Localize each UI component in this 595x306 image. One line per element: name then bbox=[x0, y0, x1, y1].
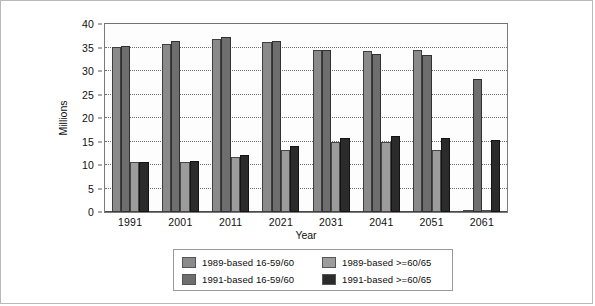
bar bbox=[221, 37, 230, 212]
bar bbox=[413, 50, 422, 212]
x-tick-label: 2031 bbox=[319, 216, 343, 228]
chart-figure: Millions 0510152025303540 19912001201120… bbox=[0, 0, 593, 304]
bar bbox=[322, 50, 331, 212]
y-tick-mark bbox=[98, 94, 102, 95]
bar bbox=[171, 41, 180, 212]
bar bbox=[262, 42, 271, 212]
bar bbox=[372, 54, 381, 212]
x-tick-label: 2011 bbox=[219, 216, 242, 228]
bar bbox=[381, 142, 390, 212]
legend-swatch-icon bbox=[322, 274, 336, 285]
bar bbox=[190, 161, 199, 212]
x-tick-label: 2041 bbox=[369, 216, 393, 228]
y-tick-label: 10 bbox=[82, 159, 94, 171]
legend-label: 1989-based >=60/65 bbox=[342, 257, 432, 268]
legend-label: 1991-based >=60/65 bbox=[342, 274, 432, 285]
bar bbox=[212, 39, 221, 212]
x-tick-label: 1991 bbox=[118, 216, 142, 228]
y-tick-mark bbox=[98, 188, 102, 189]
y-tick-mark bbox=[98, 141, 102, 142]
x-tick-label: 2001 bbox=[168, 216, 192, 228]
y-tick-mark bbox=[98, 212, 102, 213]
y-tick-mark bbox=[98, 24, 102, 25]
legend-entry[interactable]: 1989-based 16-59/60 bbox=[182, 255, 294, 269]
bar bbox=[391, 136, 400, 212]
x-axis-title: Year bbox=[295, 229, 316, 241]
y-tick-label: 0 bbox=[88, 206, 94, 218]
bar bbox=[112, 47, 121, 212]
bar bbox=[482, 210, 491, 212]
y-tick-label: 40 bbox=[82, 18, 94, 30]
bar bbox=[281, 150, 290, 212]
y-tick-label: 25 bbox=[82, 89, 94, 101]
legend-swatch-icon bbox=[182, 257, 196, 268]
bar bbox=[162, 44, 171, 212]
bar bbox=[363, 51, 372, 212]
bar bbox=[463, 210, 472, 212]
legend-swatch-icon bbox=[182, 274, 196, 285]
y-tick-label: 30 bbox=[82, 65, 94, 77]
y-tick-label: 5 bbox=[88, 183, 94, 195]
bar bbox=[473, 79, 482, 212]
bar bbox=[340, 138, 349, 212]
bars-layer bbox=[105, 24, 507, 212]
bar bbox=[231, 157, 240, 212]
bar bbox=[272, 41, 281, 212]
bar bbox=[422, 55, 431, 212]
plot-area bbox=[104, 23, 508, 213]
legend-label: 1991-based 16-59/60 bbox=[202, 274, 294, 285]
chart-legend: 1989-based 16-59/601991-based 16-59/6019… bbox=[173, 249, 453, 291]
y-tick-label: 35 bbox=[82, 42, 94, 54]
legend-entry[interactable]: 1991-based >=60/65 bbox=[322, 272, 432, 286]
bar bbox=[290, 146, 299, 212]
y-tick-label: 15 bbox=[82, 136, 94, 148]
y-tick-mark bbox=[98, 47, 102, 48]
bar bbox=[313, 50, 322, 212]
x-axis: 19912001201120212031204120512061 bbox=[104, 214, 508, 230]
bar bbox=[331, 142, 340, 213]
y-tick-mark bbox=[98, 118, 102, 119]
y-tick-mark bbox=[98, 71, 102, 72]
x-tick-label: 2051 bbox=[420, 216, 444, 228]
legend-entry[interactable]: 1991-based 16-59/60 bbox=[182, 272, 294, 286]
bar bbox=[240, 155, 249, 212]
legend-entry[interactable]: 1989-based >=60/65 bbox=[322, 255, 432, 269]
y-axis: 0510152025303540 bbox=[1, 23, 102, 213]
y-tick-mark bbox=[98, 165, 102, 166]
legend-label: 1989-based 16-59/60 bbox=[202, 257, 294, 268]
x-tick-label: 2021 bbox=[269, 216, 293, 228]
y-tick-label: 20 bbox=[82, 112, 94, 124]
bar bbox=[121, 46, 130, 212]
legend-swatch-icon bbox=[322, 257, 336, 268]
bar bbox=[491, 140, 500, 212]
x-tick-label: 2061 bbox=[470, 216, 494, 228]
bar bbox=[441, 138, 450, 212]
bar bbox=[432, 150, 441, 212]
bar bbox=[130, 162, 139, 212]
bar bbox=[139, 162, 148, 212]
bar bbox=[180, 162, 189, 212]
